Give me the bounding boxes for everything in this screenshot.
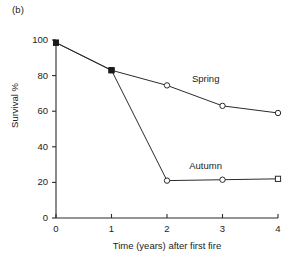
series-paths (56, 43, 278, 181)
axes (52, 40, 278, 218)
marker-open-circle (220, 177, 225, 182)
marker-open-circle (164, 178, 169, 183)
series-line-spring (56, 43, 278, 113)
marker-filled-square (109, 68, 114, 73)
marker-filled-square (53, 40, 58, 45)
series-line-autumn (56, 43, 278, 181)
marker-open-square (275, 176, 280, 181)
marker-open-circle (220, 103, 225, 108)
marker-open-circle (164, 83, 169, 88)
survival-line-chart: (b) Survival % Time (years) after first … (0, 0, 290, 260)
series-markers (53, 40, 280, 183)
marker-open-circle (275, 110, 280, 115)
plot-area (0, 0, 290, 260)
